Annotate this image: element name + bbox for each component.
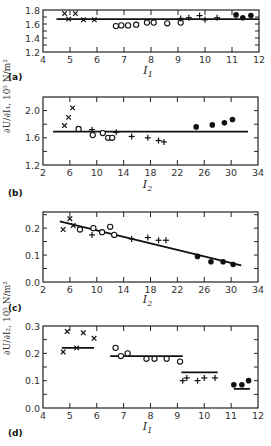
open-circle-marker (177, 359, 182, 364)
open-circle-marker (90, 132, 95, 137)
x-tick-label: 10 (91, 167, 103, 178)
x-tick-label: 6 (67, 284, 73, 295)
x-tick-label: 26 (198, 284, 210, 295)
x-marker (61, 227, 66, 232)
plus-marker (113, 129, 119, 135)
x-tick-label: 34 (252, 284, 264, 295)
filled-circle-marker (193, 124, 199, 130)
plus-marker (202, 17, 208, 23)
plus-marker (201, 375, 207, 381)
open-circle-marker (165, 21, 170, 26)
x-marker (65, 329, 70, 334)
x-tick-label: 6 (94, 54, 100, 65)
x-tick-label: 7 (121, 410, 127, 421)
x-tick-label: 22 (171, 284, 183, 295)
open-circle-marker (144, 356, 149, 361)
open-circle-marker (100, 130, 105, 135)
panel-label: (d) (8, 428, 23, 438)
plus-marker (145, 135, 151, 141)
y-tick-label: 0.2 (25, 348, 40, 359)
open-circle-marker (118, 353, 123, 358)
x-axis-title: I1 (142, 64, 152, 79)
filled-circle-marker (239, 382, 245, 388)
plot-frame (43, 212, 258, 282)
panel-label: (b) (8, 188, 23, 198)
chart-panel-c: 26101418222630340.00.10.2I2(c) (8, 212, 264, 313)
open-circle-marker (113, 24, 118, 29)
x-axis-title: I1 (142, 420, 152, 435)
open-circle-marker (108, 224, 113, 229)
x-tick-label: 22 (171, 167, 183, 178)
filled-circle-marker (246, 378, 252, 384)
x-tick-label: 18 (144, 167, 156, 178)
x-tick-label: 34 (252, 167, 264, 178)
plus-marker (161, 139, 167, 145)
x-tick-label: 4 (40, 410, 46, 421)
plus-marker (156, 237, 162, 243)
x-tick-label: 7 (121, 54, 127, 65)
open-circle-marker (119, 23, 124, 28)
x-tick-label: 10 (91, 284, 103, 295)
x-tick-label: 6 (94, 410, 100, 421)
y-axis-title-top: ∂U/∂I₁, 10⁵ N/m² (2, 59, 12, 133)
x-tick-label: 9 (175, 54, 181, 65)
chart-panel-a: 4567891011121.21.41.61.8I1(a) (8, 5, 265, 83)
plus-marker (129, 236, 135, 242)
filled-circle-marker (220, 259, 226, 265)
plus-marker (180, 378, 186, 384)
plus-marker (195, 378, 201, 384)
plot-frame (43, 10, 259, 52)
x-tick-label: 6 (67, 167, 73, 178)
x-tick-label: 30 (225, 284, 237, 295)
x-marker (68, 216, 73, 221)
plus-marker (156, 138, 162, 144)
filled-circle-marker (233, 12, 239, 18)
x-tick-label: 4 (40, 54, 46, 65)
open-circle-marker (125, 351, 130, 356)
filled-circle-marker (231, 382, 237, 388)
x-tick-label: 8 (147, 410, 153, 421)
x-axis-title: I2 (142, 178, 152, 193)
plus-marker (163, 237, 169, 243)
x-marker (81, 331, 86, 336)
x-tick-label: 2 (40, 284, 46, 295)
x-tick-label: 11 (225, 410, 237, 421)
x-tick-label: 26 (198, 167, 210, 178)
open-circle-marker (76, 126, 81, 131)
x-marker (70, 106, 75, 111)
filled-circle-marker (210, 122, 216, 128)
y-tick-label: 2.0 (25, 105, 40, 116)
open-circle-marker (144, 20, 149, 25)
open-circle-marker (77, 227, 82, 232)
x-tick-label: 5 (67, 54, 73, 65)
open-circle-marker (152, 356, 157, 361)
x-tick-label: 14 (118, 167, 130, 178)
filled-circle-marker (222, 120, 228, 126)
filled-circle-marker (240, 15, 246, 21)
filled-circle-marker (195, 254, 201, 260)
open-circle-marker (164, 356, 169, 361)
filled-circle-marker (230, 262, 236, 268)
plot-frame (43, 326, 258, 408)
plus-marker (89, 232, 95, 238)
x-tick-label: 30 (225, 167, 237, 178)
chart-panel-d: 4567891011120.00.10.20.3I1(d) (8, 321, 264, 439)
open-circle-marker (112, 232, 117, 237)
open-circle-marker (110, 135, 115, 140)
x-tick-label: 10 (198, 410, 210, 421)
x-marker (66, 115, 71, 120)
x-tick-label: 10 (199, 54, 211, 65)
open-circle-marker (113, 345, 118, 350)
chart-panel-b: 26101418222630341.21.62.0I2(b) (8, 97, 264, 198)
x-tick-label: 5 (67, 410, 73, 421)
y-tick-label: 0.1 (25, 250, 40, 261)
x-tick-label: 12 (253, 54, 265, 65)
open-circle-marker (125, 23, 130, 28)
open-circle-marker (100, 230, 105, 235)
x-marker (62, 123, 67, 128)
y-tick-label: 1.8 (25, 5, 40, 16)
filled-circle-marker (248, 13, 254, 19)
x-tick-label: 2 (40, 167, 46, 178)
figure: 4567891011121.21.41.61.8I1(a)26101418222… (0, 0, 271, 446)
y-tick-label: 0.0 (25, 277, 40, 288)
